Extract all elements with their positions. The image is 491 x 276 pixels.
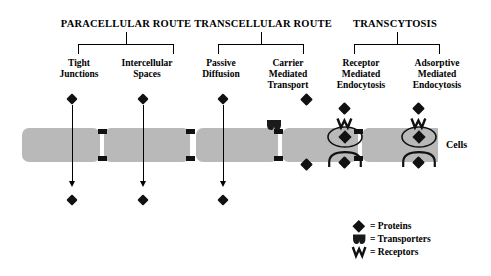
bracket-tick-left [218,44,219,54]
legend: = Proteins = Transporters = Receptors [352,220,482,259]
sublabel-tight-junctions: Tight Junctions [48,58,110,80]
cells-caption-label: Cells [446,139,467,150]
sublabel-adsorptive-mediated-endocytosis: Adsorptive Mediated Endocytosis [398,58,476,91]
legend-item-receptors: = Receptors [352,246,482,259]
bracket-tick-left [354,44,355,54]
legend-item-transporters: = Transporters [352,233,482,246]
protein-diamond-icon [412,102,425,115]
bracket-bar [78,44,174,45]
protein-diamond-icon [66,93,77,104]
cell-epithelial-3 [196,128,278,162]
sublabel-line: Diffusion [190,69,252,80]
route-title-transcytosis: TRANSCYTOSIS [330,18,460,29]
diamond-icon [352,220,366,233]
bracket-stem [397,32,398,44]
tight-junction-block [186,129,195,134]
sublabel-line: Intercellular [108,58,186,69]
route-line-passive-diffusion [223,105,224,183]
protein-diamond-icon [66,194,77,205]
sublabel-line: Passive [190,58,252,69]
bracket-tick-right [173,44,174,54]
bracket-tick-right [439,44,440,54]
bracket-transcytosis [354,32,440,54]
bracket-bar [354,44,440,45]
transporter-icon [352,233,366,246]
sublabel-line: Receptor [324,58,398,69]
protein-diamond-icon [137,194,148,205]
legend-item-proteins: = Proteins [352,220,482,233]
protein-diamond-icon [217,93,228,104]
sublabel-receptor-mediated-endocytosis: Receptor Mediated Endocytosis [324,58,398,91]
sublabel-carrier-mediated-transport: Carrier Mediated Transport [254,58,322,91]
bracket-tick-right [303,44,304,54]
cell-epithelial-1 [22,128,100,162]
route-arrowhead-tight-junctions [69,181,75,187]
endocytic-vesicle-icon [401,126,437,148]
sublabel-passive-diffusion: Passive Diffusion [190,58,252,80]
protein-diamond-icon [338,102,351,115]
sublabel-line: Transport [254,80,322,91]
sublabel-line: Carrier [254,58,322,69]
transporter-icon [266,119,282,131]
sublabel-line: Endocytosis [324,80,398,91]
sublabel-line: Adsorptive [398,58,476,69]
protein-diamond-icon [217,194,228,205]
sublabel-line: Mediated [324,69,398,80]
bracket-tick-left [78,44,79,54]
bracket-paracellular [78,32,174,54]
bracket-bar [218,44,304,45]
tight-junction-block [274,156,283,161]
sublabel-line: Junctions [48,69,110,80]
route-line-intercellular-spaces [143,105,144,183]
route-line-tight-junctions [72,105,73,183]
protein-diamond-icon [300,93,313,106]
sublabel-intercellular-spaces: Intercellular Spaces [108,58,186,80]
sublabel-line: Tight [48,58,110,69]
bracket-stem [126,32,127,44]
tight-junction-block [98,129,107,134]
legend-label: = Transporters [370,233,431,246]
bracket-stem [261,32,262,44]
tight-junction-block [98,156,107,161]
receptor-icon [352,246,366,259]
route-title-transcellular: TRANSCELLULAR ROUTE [178,18,348,29]
route-arrowhead-intercellular-spaces [140,181,146,187]
tight-junction-block [186,156,195,161]
legend-label: = Receptors [370,246,418,259]
route-arrowhead-passive-diffusion [220,181,226,187]
protein-diamond-icon [137,93,148,104]
bracket-transcellular [218,32,304,54]
sublabel-line: Mediated [398,69,476,80]
diagram-canvas: PARACELLULAR ROUTE TRANSCELLULAR ROUTE T… [0,0,491,276]
endocytic-vesicle-icon [327,126,363,148]
legend-label: = Proteins [370,220,411,233]
sublabel-line: Endocytosis [398,80,476,91]
sublabel-line: Spaces [108,69,186,80]
sublabel-line: Mediated [254,69,322,80]
cell-epithelial-2 [104,128,190,162]
